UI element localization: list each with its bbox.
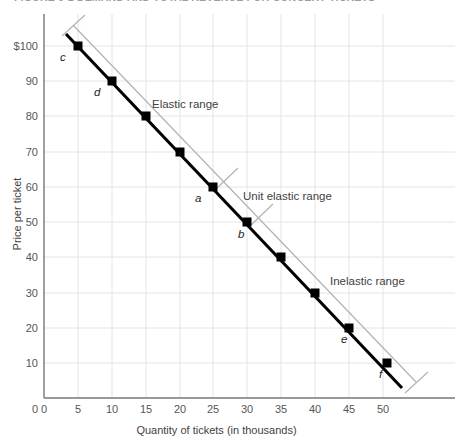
x-tick-40: 40 bbox=[300, 403, 330, 415]
y-tick-20: 20 bbox=[0, 322, 38, 334]
y-tick-30: 30 bbox=[0, 287, 38, 299]
demand-curve-chart bbox=[0, 0, 470, 446]
y-axis-title: Price per ticket bbox=[11, 164, 23, 264]
x-tick-25: 25 bbox=[198, 403, 228, 415]
x-axis-title: Quantity of tickets (in thousands) bbox=[44, 424, 389, 436]
range-bracket-guide bbox=[62, 15, 428, 393]
x-tick-5: 5 bbox=[63, 403, 93, 415]
annotation-inelastic-range: Inelastic range bbox=[330, 275, 405, 287]
figure-root: FIGURE 6-1 DEMAND AND TOTAL REVENUE FOR … bbox=[0, 0, 470, 446]
annotation-unit-elastic-range: Unit elastic range bbox=[243, 190, 332, 202]
horizontal-gridlines bbox=[44, 46, 455, 363]
data-point-40 bbox=[311, 289, 320, 298]
point-label-d: d bbox=[94, 86, 100, 98]
annotation-elastic-range: Elastic range bbox=[152, 98, 218, 110]
x-tick-15: 15 bbox=[131, 403, 161, 415]
point-label-e: e bbox=[341, 333, 347, 345]
data-point-15 bbox=[142, 112, 151, 121]
y-tick-70: 70 bbox=[0, 146, 38, 158]
data-point-f bbox=[383, 359, 392, 368]
point-label-a: a bbox=[195, 192, 201, 204]
data-point-20 bbox=[176, 148, 185, 157]
demand-curve-line bbox=[66, 34, 402, 388]
data-point-b bbox=[243, 218, 252, 227]
x-tick-20: 20 bbox=[165, 403, 195, 415]
y-tick-90: 90 bbox=[0, 75, 38, 87]
x-tick-50: 50 bbox=[368, 403, 398, 415]
data-point-c bbox=[74, 42, 83, 51]
x-tick-10: 10 bbox=[97, 403, 127, 415]
data-point-d bbox=[108, 77, 117, 86]
data-point-e bbox=[345, 324, 354, 333]
point-label-b: b bbox=[238, 228, 244, 240]
data-point-35 bbox=[277, 253, 286, 262]
x-tick-45: 45 bbox=[334, 403, 364, 415]
y-tick-10: 10 bbox=[0, 357, 38, 369]
data-point-a bbox=[209, 183, 218, 192]
x-tick-0: 0 bbox=[29, 403, 59, 415]
point-label-f: f bbox=[379, 368, 382, 380]
x-tick-35: 35 bbox=[266, 403, 296, 415]
point-label-c: c bbox=[60, 51, 66, 63]
y-tick-100: $100 bbox=[0, 40, 38, 52]
x-tick-30: 30 bbox=[232, 403, 262, 415]
y-tick-80: 80 bbox=[0, 110, 38, 122]
